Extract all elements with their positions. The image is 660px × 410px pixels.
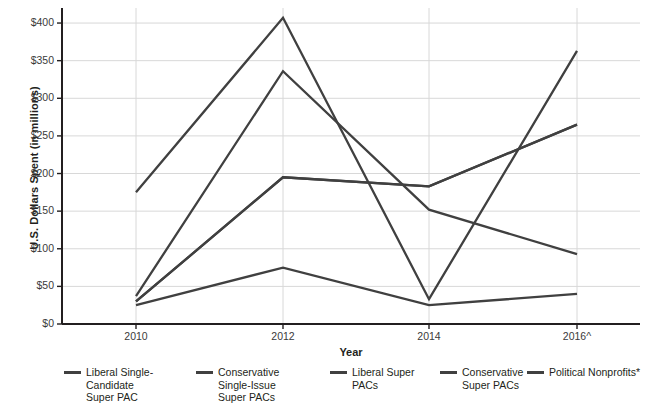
y-tick-label: $150: [8, 205, 54, 216]
legend-line-swatch-icon: [196, 371, 213, 374]
x-tick-label: 2010: [96, 330, 176, 342]
legend-line-swatch-icon: [527, 371, 544, 374]
legend-item[interactable]: Liberal Single-Candidate Super PAC: [64, 366, 160, 404]
series-line-4: [136, 125, 577, 302]
legend-item-label: Conservative Super PACs: [462, 366, 523, 391]
legend-line-swatch-icon: [330, 371, 347, 374]
legend-line-swatch-icon: [440, 371, 457, 374]
legend-item[interactable]: Liberal Super PACs: [330, 366, 436, 391]
legend-item[interactable]: Conservative Single-Issue Super PACs: [196, 366, 306, 404]
legend-line-swatch-icon: [64, 371, 81, 374]
y-tick-label: $350: [8, 55, 54, 66]
legend-item-label: Liberal Super PACs: [352, 366, 436, 391]
y-tick-label: $0: [8, 318, 54, 329]
line-chart-figure: U.S. Dollars Spent (in millions) Year $0…: [0, 0, 660, 410]
y-tick-label: $400: [8, 17, 54, 28]
legend-item-label: Conservative Single-Issue Super PACs: [218, 366, 306, 404]
x-axis-title: Year: [62, 346, 640, 358]
x-tick-label: 2014: [389, 330, 469, 342]
y-tick-label: $250: [8, 130, 54, 141]
y-tick-label: $100: [8, 243, 54, 254]
x-tick-label: 2012: [243, 330, 323, 342]
x-tick-label: 2016^: [537, 330, 617, 342]
y-tick-label: $50: [8, 280, 54, 291]
legend-item-label: Political Nonprofits*: [549, 366, 640, 379]
chart-legend: Liberal Single-Candidate Super PACConser…: [0, 366, 660, 410]
legend-item-label: Liberal Single-Candidate Super PAC: [86, 366, 160, 404]
legend-item[interactable]: Conservative Super PACs: [440, 366, 518, 391]
legend-item[interactable]: Political Nonprofits*: [527, 366, 653, 379]
series-line-1: [136, 71, 577, 296]
y-tick-label: $200: [8, 168, 54, 179]
series-line-3: [136, 18, 577, 299]
y-tick-label: $300: [8, 92, 54, 103]
